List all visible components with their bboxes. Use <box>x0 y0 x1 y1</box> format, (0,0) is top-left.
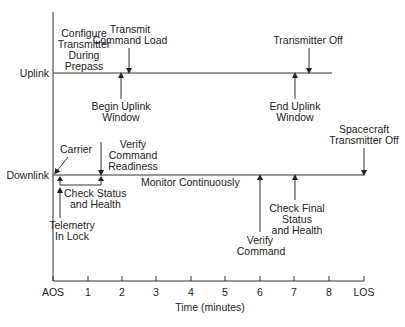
timeline-diagram: AOS 1 2 3 4 5 6 7 8 LOS Time (minutes) U… <box>0 0 405 327</box>
carrier-event: Carrier <box>56 143 93 172</box>
up-arrow-icon <box>57 176 63 181</box>
svg-text:Command: Command <box>237 245 286 257</box>
end-uplink-window-event: End Uplink Window <box>270 75 322 123</box>
check-status-bracket: Check Status and Health <box>57 176 126 210</box>
svg-text:Carrier: Carrier <box>60 143 93 155</box>
svg-text:In Lock: In Lock <box>55 230 90 242</box>
check-final-status-event: Check Final Status and Health <box>269 177 324 236</box>
svg-text:Transmitter Off: Transmitter Off <box>273 34 343 46</box>
tick-7: 7 <box>291 286 297 298</box>
monitor-continuously-label: Monitor Continuously <box>141 176 240 188</box>
svg-text:Readiness: Readiness <box>108 160 158 172</box>
spacecraft-transmitter-off-event: Spacecraft Transmitter Off <box>329 123 399 173</box>
x-axis-label: Time (minutes) <box>175 301 245 313</box>
up-arrow-icon <box>98 176 104 181</box>
axis-tick-labels: AOS 1 2 3 4 5 6 7 8 LOS <box>42 286 375 298</box>
begin-uplink-window-event: Begin Uplink Window <box>92 75 152 123</box>
svg-text:Transmitter Off: Transmitter Off <box>329 134 399 146</box>
uplink-label: Uplink <box>20 67 50 79</box>
verify-command-readiness-event: Verify Command Readiness <box>101 138 158 173</box>
svg-text:Window: Window <box>102 111 140 123</box>
tick-2: 2 <box>119 286 125 298</box>
tick-5: 5 <box>222 286 228 298</box>
tick-aos: AOS <box>42 286 64 298</box>
svg-text:Command Load: Command Load <box>93 34 168 46</box>
diagonal-arrow-icon <box>56 157 68 172</box>
tick-4: 4 <box>188 286 194 298</box>
svg-text:Prepass: Prepass <box>65 60 104 72</box>
tick-3: 3 <box>153 286 159 298</box>
svg-text:and Health: and Health <box>70 198 121 210</box>
svg-text:and Health: and Health <box>272 224 323 236</box>
axis-ticks <box>53 276 364 281</box>
downlink-label: Downlink <box>6 169 49 181</box>
verify-command-event: Verify Command <box>237 177 286 257</box>
tick-6: 6 <box>257 286 263 298</box>
bracket <box>60 178 101 185</box>
tick-los: LOS <box>353 286 374 298</box>
tick-1: 1 <box>85 286 91 298</box>
svg-text:Window: Window <box>276 111 314 123</box>
transmitter-off-event: Transmitter Off <box>273 34 343 71</box>
tick-8: 8 <box>326 286 332 298</box>
timeline-svg: AOS 1 2 3 4 5 6 7 8 LOS Time (minutes) U… <box>0 0 405 327</box>
